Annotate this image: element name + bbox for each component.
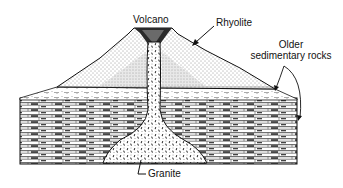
older-sedimentary-line2: sedimentary rocks (241, 50, 341, 61)
volcano-cross-section-diagram: Volcano Rhyolite Older sedimentary rocks… (0, 0, 343, 188)
rhyolite-arrow (192, 26, 214, 46)
rhyolite-label: Rhyolite (216, 17, 252, 28)
older-sedimentary-line1: Older (241, 39, 341, 50)
older-sedimentary-rocks-label: Older sedimentary rocks (241, 39, 341, 61)
granite-label: Granite (148, 168, 181, 179)
volcano-label: Volcano (133, 14, 169, 25)
